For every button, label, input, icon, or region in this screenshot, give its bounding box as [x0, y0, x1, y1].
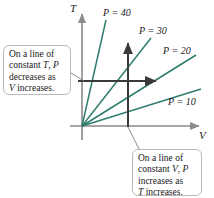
x-axis-label: V — [199, 129, 206, 141]
callout-bottom-line-4: T increases. — [138, 187, 197, 198]
callout-bottom-line-4-post: increases. — [143, 187, 183, 197]
callout-left-line-1: On a line of — [9, 49, 66, 60]
isobar-label-p10: P = 10 — [168, 96, 196, 107]
callout-constant-volume: On a line of constant V, P increases as … — [132, 149, 202, 196]
callout-bottom-line-3: increases as — [138, 176, 197, 187]
thermodynamics-isobar-figure: T V P = 40 P = 30 P = 20 P = 10 On a lin… — [0, 0, 214, 198]
isobar-label-p40: P = 40 — [103, 7, 131, 18]
isobar-line-p20 — [82, 55, 196, 126]
callout-left-var-p: P — [53, 60, 59, 70]
leader-line-bottom-callout — [128, 127, 139, 149]
isobar-label-p20: P = 20 — [163, 45, 191, 56]
isobar-label-p30: P = 30 — [139, 25, 167, 36]
callout-bottom-line-2-pre: constant — [138, 164, 172, 174]
callout-left-line-2: constant T, P — [9, 60, 66, 71]
callout-constant-temperature: On a line of constant T, P decreases as … — [3, 45, 71, 95]
callout-bottom-line-2: constant V, P — [138, 164, 197, 175]
callout-bottom-var-p: P — [183, 164, 189, 174]
callout-bottom-line-1: On a line of — [138, 153, 197, 164]
callout-left-line-4: V increases. — [9, 83, 66, 94]
isobar-line-p10 — [82, 89, 201, 126]
callout-left-line-3: decreases as — [9, 72, 66, 83]
y-axis-label: T — [70, 2, 76, 14]
callout-left-line-4-post: increases. — [15, 83, 55, 93]
callout-left-line-2-pre: constant — [9, 60, 43, 70]
